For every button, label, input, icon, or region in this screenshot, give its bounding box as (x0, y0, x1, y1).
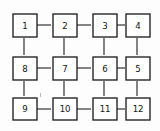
node-4[interactable]: 4 (126, 14, 150, 37)
node-1[interactable]: 1 (13, 14, 37, 37)
node-6-label: 6 (102, 64, 107, 74)
node-7-label: 7 (62, 64, 67, 74)
node-8[interactable]: 8 (13, 57, 37, 80)
node-11-label: 11 (100, 104, 111, 114)
node-2-label: 2 (62, 21, 67, 31)
scan-artifact-speck (40, 93, 41, 97)
node-5-label: 5 (135, 64, 140, 74)
node-3-label: 3 (102, 21, 107, 31)
node-4-label: 4 (135, 21, 140, 31)
node-1-label: 1 (22, 21, 27, 31)
node-9[interactable]: 9 (13, 98, 37, 120)
node-12[interactable]: 12 (126, 98, 150, 120)
node-2[interactable]: 2 (53, 14, 77, 37)
node-11[interactable]: 11 (93, 98, 117, 120)
node-10[interactable]: 10 (53, 98, 77, 120)
node-5[interactable]: 5 (126, 57, 150, 80)
diagram-canvas: 1 2 3 4 8 7 6 5 (0, 0, 160, 131)
node-6[interactable]: 6 (93, 57, 117, 80)
node-3[interactable]: 3 (93, 14, 117, 37)
node-7[interactable]: 7 (53, 57, 77, 80)
node-12-label: 12 (133, 104, 144, 114)
node-10-label: 10 (60, 104, 71, 114)
node-9-label: 9 (22, 104, 27, 114)
node-8-label: 8 (22, 64, 27, 74)
grid-graph-svg: 1 2 3 4 8 7 6 5 (0, 0, 160, 131)
